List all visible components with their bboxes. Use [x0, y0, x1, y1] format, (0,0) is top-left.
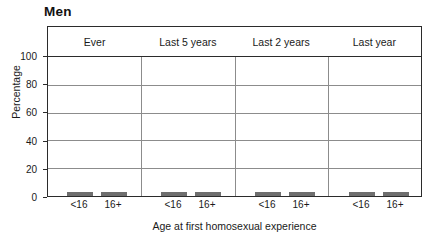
group-separator-2 — [235, 57, 236, 196]
bar-segment-black — [162, 195, 186, 196]
bar-ever-under16 — [67, 192, 93, 196]
y-tick-label-80: 80 — [26, 79, 37, 90]
x-tick-label-lastyear-under16: <16 — [344, 199, 378, 210]
bar-last2years-under16 — [255, 192, 281, 196]
bar-segment-black — [290, 195, 314, 196]
bar-segment-black — [68, 195, 92, 196]
group-separator-3 — [328, 57, 329, 196]
y-tick-label-40: 40 — [26, 135, 37, 146]
y-tick-label-20: 20 — [26, 163, 37, 174]
bar-segment-black — [102, 195, 126, 196]
y-axis-tick-labels: 100 80 60 40 20 0 — [0, 56, 43, 197]
y-tick-label-60: 60 — [26, 107, 37, 118]
bar-last5years-under16 — [161, 192, 187, 196]
bar-last2years-16plus — [289, 192, 315, 196]
bar-ever-16plus — [101, 192, 127, 196]
group-header-last-2-years: Last 2 years — [235, 27, 328, 56]
group-header-last-year: Last year — [328, 27, 421, 56]
plot-frame: Ever Last 5 years Last 2 years Last year — [47, 26, 422, 197]
x-axis-tick-labels: <16 16+ <16 16+ <16 16+ <16 16+ — [47, 199, 422, 215]
plot-area — [48, 57, 421, 196]
y-tick-mark-0 — [43, 197, 47, 198]
x-tick-label-ever-under16: <16 — [62, 199, 96, 210]
group-separator-1 — [141, 57, 142, 196]
y-tick-label-100: 100 — [20, 51, 37, 62]
x-tick-label-last5years-under16: <16 — [156, 199, 190, 210]
x-tick-label-last5years-16plus: 16+ — [190, 199, 224, 210]
group-header-ever: Ever — [48, 27, 141, 56]
bar-segment-black — [196, 195, 220, 196]
bar-last5years-16plus — [195, 192, 221, 196]
chart-men-stacked-bar: Men Percentage 100 80 60 40 20 0 Ever La… — [0, 0, 433, 245]
bar-segment-black — [256, 195, 280, 196]
y-tick-label-0: 0 — [31, 192, 37, 203]
x-axis-title: Age at first homosexual experience — [47, 220, 422, 232]
bar-lastyear-16plus — [383, 192, 409, 196]
group-header-last-5-years: Last 5 years — [141, 27, 234, 56]
x-tick-label-lastyear-16plus: 16+ — [378, 199, 412, 210]
x-tick-label-last2years-16plus: 16+ — [284, 199, 318, 210]
bar-segment-black — [384, 195, 408, 196]
bar-segment-black — [350, 195, 374, 196]
bar-lastyear-under16 — [349, 192, 375, 196]
x-tick-label-ever-16plus: 16+ — [96, 199, 130, 210]
group-header-row: Ever Last 5 years Last 2 years Last year — [48, 27, 421, 57]
x-tick-label-last2years-under16: <16 — [250, 199, 284, 210]
chart-title: Men — [44, 4, 72, 19]
